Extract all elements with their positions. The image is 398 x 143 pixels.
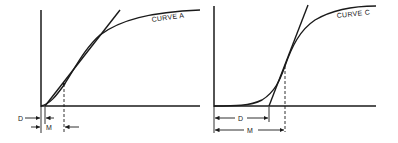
- left-m-label: M: [46, 124, 52, 131]
- curve-c: [214, 6, 376, 106]
- left-tangent-line: [45, 10, 120, 106]
- right-m-label: M: [247, 127, 253, 134]
- left-d-label: D: [18, 115, 23, 122]
- curve-a-label: CURVE A: [151, 12, 184, 23]
- diagram: CURVE A D M CURVE C D M: [0, 0, 398, 143]
- panel-right: CURVE C D M: [214, 5, 376, 134]
- right-tangent-line: [269, 5, 308, 106]
- panel-left: CURVE A D M: [18, 10, 200, 133]
- right-d-label: D: [238, 115, 243, 122]
- curve-a: [41, 10, 200, 106]
